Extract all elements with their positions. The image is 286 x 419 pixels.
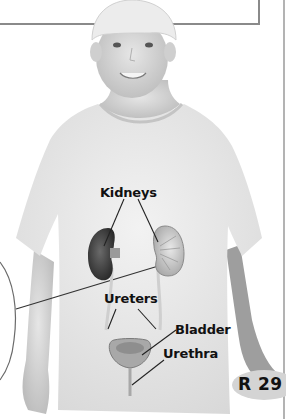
zoom-callout-circle	[0, 262, 15, 380]
illustration	[0, 0, 286, 419]
left-arm	[23, 250, 55, 414]
figure: Kidneys Ureters Bladder Urethra R 29	[0, 0, 286, 419]
page-badge-text: R 29	[238, 374, 283, 394]
label-bladder: Bladder	[175, 322, 231, 337]
t-shirt	[16, 104, 262, 414]
label-urethra: Urethra	[163, 346, 218, 361]
label-kidneys: Kidneys	[100, 185, 157, 200]
label-ureters: Ureters	[104, 291, 158, 306]
right-arm	[226, 245, 276, 382]
